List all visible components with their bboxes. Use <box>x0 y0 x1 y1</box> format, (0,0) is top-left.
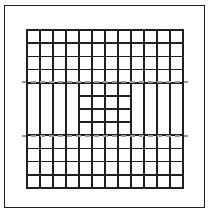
grid-svg <box>0 0 210 215</box>
figure-root <box>0 0 210 215</box>
grid-canvas <box>0 0 210 215</box>
